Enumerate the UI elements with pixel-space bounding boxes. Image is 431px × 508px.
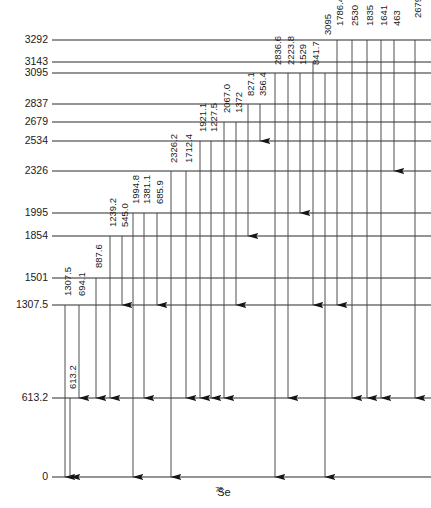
gamma-energy-labels-group: 1307.5694.1613.2887.61239.2545.01994.813… bbox=[62, 0, 423, 389]
level-scheme-canvas: 3292314330952837267925342326199518541501… bbox=[0, 0, 431, 508]
level-energy-label: 0 bbox=[42, 470, 48, 482]
gamma-energy-label: 1921.1 bbox=[197, 103, 208, 132]
gamma-energy-label: 613.2 bbox=[67, 365, 78, 389]
level-energy-label: 1854 bbox=[25, 229, 49, 241]
nuclide-symbol: Se bbox=[217, 486, 230, 498]
gamma-energy-label: 545.0 bbox=[119, 203, 130, 227]
gamma-energy-label: 685.9 bbox=[154, 180, 165, 204]
gamma-energy-label: 1381.1 bbox=[141, 175, 152, 204]
gamma-energy-label: 1641 bbox=[378, 5, 389, 26]
level-scheme-diagram: 3292314330952837267925342326199518541501… bbox=[0, 0, 431, 508]
level-energy-label: 2534 bbox=[25, 134, 49, 146]
gamma-energy-label: 1529 bbox=[297, 44, 308, 65]
gamma-energy-label: 1835 bbox=[364, 5, 375, 26]
gamma-energy-label: 1786.4 bbox=[334, 0, 345, 26]
level-energy-label: 3095 bbox=[25, 66, 49, 78]
level-energy-label: 613.2 bbox=[22, 391, 48, 403]
gamma-energy-label: 694.1 bbox=[76, 272, 87, 296]
level-energy-label: 2326 bbox=[25, 164, 49, 176]
gamma-energy-label: 887.6 bbox=[93, 244, 104, 268]
gamma-energy-label: 2530 bbox=[349, 5, 360, 26]
level-energy-label: 1501 bbox=[25, 271, 49, 283]
gamma-energy-label: 2326.2 bbox=[168, 134, 179, 163]
level-energy-label: 2837 bbox=[25, 97, 49, 109]
nuclide-label: 78 Se bbox=[215, 486, 231, 498]
gamma-energy-label: 2836.6 bbox=[272, 36, 283, 65]
level-energy-label: 1995 bbox=[25, 206, 49, 218]
level-energy-label: 2679 bbox=[25, 115, 49, 127]
gamma-energy-label: 1307.5 bbox=[62, 267, 73, 296]
gamma-energy-label: 463 bbox=[391, 10, 402, 26]
gamma-energy-label: 1994.8 bbox=[130, 175, 141, 204]
gamma-energy-label: 1239.2 bbox=[107, 198, 118, 227]
gamma-energy-label: 1372 bbox=[233, 92, 244, 113]
gamma-energy-label: 2679 bbox=[412, 0, 423, 18]
gamma-energy-label: 3095 bbox=[322, 14, 333, 35]
gamma-energy-label: 2067.0 bbox=[221, 84, 232, 113]
gamma-energy-label: 827.1 bbox=[245, 72, 256, 96]
gamma-energy-label: 1227.5 bbox=[208, 103, 219, 132]
level-energy-label: 3292 bbox=[25, 33, 49, 45]
level-energy-labels-group: 3292314330952837267925342326199518541501… bbox=[16, 33, 48, 482]
level-energy-label: 1307.5 bbox=[16, 298, 48, 310]
gamma-energy-label: 356.4 bbox=[257, 72, 268, 96]
gamma-energy-label: 1712.4 bbox=[183, 134, 194, 163]
gamma-energy-label: 2223.8 bbox=[285, 36, 296, 65]
gamma-energy-label: 841.7 bbox=[310, 41, 321, 65]
